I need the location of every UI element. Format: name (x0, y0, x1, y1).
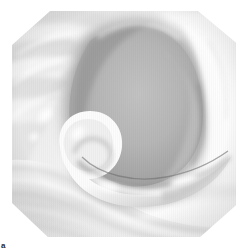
layer-cavity (12, 11, 236, 237)
halftone-dither-overlay (12, 11, 236, 237)
layer-upper-left-folds (12, 11, 236, 237)
render-stage (12, 11, 236, 237)
figure-panel: a (0, 0, 248, 252)
layer-hook-structure (12, 11, 236, 237)
layer-lower-waves (12, 11, 236, 237)
layer-right-wall (12, 11, 236, 237)
panel-label: a (1, 242, 5, 250)
layer-vignette (12, 11, 236, 237)
layer-base-wall (12, 11, 236, 237)
